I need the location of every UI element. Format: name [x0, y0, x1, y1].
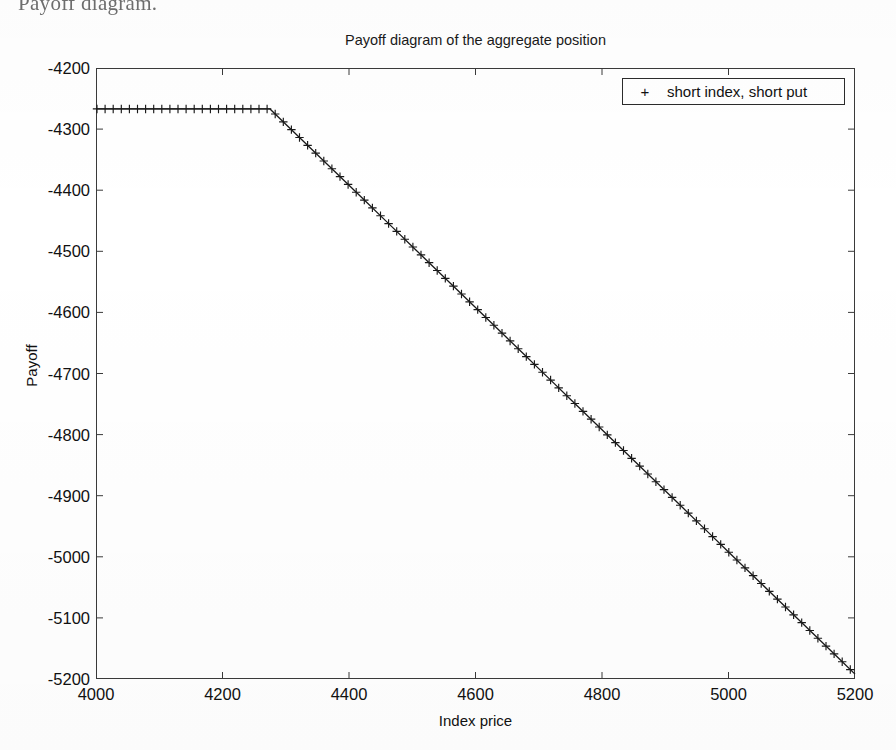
legend-marker-plus-icon: +: [623, 84, 667, 99]
plot-area: [96, 68, 855, 679]
legend-entry-label: short index, short put: [667, 84, 807, 99]
x-tick-label: 4000: [78, 686, 115, 702]
y-tick-label: -5000: [28, 549, 90, 565]
y-tick-label: -4300: [28, 121, 90, 137]
y-tick-label: -4900: [28, 488, 90, 504]
chart-title: Payoff diagram of the aggregate position: [96, 32, 855, 48]
x-tick-label: 4200: [204, 686, 241, 702]
y-tick-label: -4200: [28, 60, 90, 76]
x-tick-label: 4800: [584, 686, 621, 702]
y-tick-label: -5100: [28, 610, 90, 626]
x-tick-label: 5000: [710, 686, 747, 702]
x-axis-tick-labels: 4000420044004600480050005200: [0, 686, 896, 710]
y-tick-label: -4600: [28, 304, 90, 320]
x-tick-label: 4600: [457, 686, 494, 702]
y-tick-label: -4400: [28, 182, 90, 198]
y-axis-title: Payoff: [23, 326, 40, 406]
y-tick-label: -4500: [28, 243, 90, 259]
x-tick-label: 4400: [331, 686, 368, 702]
x-axis-title: Index price: [96, 712, 855, 729]
x-tick-label: 5200: [837, 686, 874, 702]
y-tick-label: -4800: [28, 427, 90, 443]
payoff-chart-figure: Payoff diagram of the aggregate position…: [0, 0, 896, 750]
chart-legend: + short index, short put: [622, 78, 845, 105]
